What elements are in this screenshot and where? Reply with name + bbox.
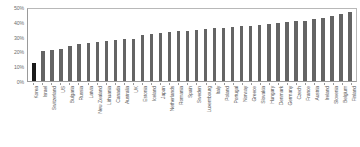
- bar: [213, 28, 216, 81]
- bar-slot: [75, 9, 84, 81]
- bar: [267, 24, 270, 81]
- x-axis-label-slot: Slovenia: [328, 83, 337, 147]
- bar-slot: [346, 9, 355, 81]
- x-axis-tick: [169, 83, 170, 85]
- x-axis-label-slot: New Zealand: [92, 83, 101, 147]
- x-axis-label-slot: Luxembourg: [201, 83, 210, 147]
- x-axis-tick: [324, 83, 325, 85]
- x-axis-label-slot: Germany: [283, 83, 292, 147]
- y-axis-tick-label: 10%: [14, 64, 24, 70]
- bar-slot: [66, 9, 75, 81]
- bar-slot: [337, 9, 346, 81]
- bar-slot: [165, 9, 174, 81]
- bar: [276, 23, 279, 81]
- plot-area: [27, 8, 357, 82]
- x-axis-tick: [187, 83, 188, 85]
- x-axis-label-slot: Czech: [292, 83, 301, 147]
- x-axis-label-slot: Poland: [219, 83, 228, 147]
- bar: [105, 41, 108, 81]
- bar: [114, 40, 117, 81]
- bar: [231, 27, 234, 81]
- x-axis-tick-label: Finland: [351, 86, 357, 101]
- bar: [348, 12, 351, 81]
- x-axis-tick: [215, 83, 216, 85]
- bar: [96, 42, 99, 81]
- bar-slot: [93, 9, 102, 81]
- y-axis-tick-label: 50%: [14, 5, 24, 11]
- x-axis-label-slot: Japan: [156, 83, 165, 147]
- bar-slot: [192, 9, 201, 81]
- bar-slot: [210, 9, 219, 81]
- bar: [312, 19, 315, 81]
- x-axis-label-slot: Spain: [183, 83, 192, 147]
- bar-slot: [237, 9, 246, 81]
- x-axis-label-slot: Finland: [346, 83, 355, 147]
- x-axis-tick: [333, 83, 334, 85]
- bar-slot: [219, 9, 228, 81]
- bar: [150, 34, 153, 81]
- y-axis-tick-label: 20%: [14, 49, 24, 55]
- bar-slot: [282, 9, 291, 81]
- bar: [240, 26, 243, 81]
- x-axis-label-slot: Switzerland: [47, 83, 56, 147]
- bar: [186, 31, 189, 81]
- bar-slot: [48, 9, 57, 81]
- x-axis-tick: [160, 83, 161, 85]
- bar-slot: [309, 9, 318, 81]
- bar-slot: [319, 9, 328, 81]
- bar-slot: [30, 9, 39, 81]
- bar: [41, 51, 44, 81]
- bar-slot: [138, 9, 147, 81]
- x-axis-label-slot: Slovakia: [255, 83, 264, 147]
- bar-slot: [102, 9, 111, 81]
- bar: [339, 14, 342, 81]
- bar: [294, 21, 297, 81]
- x-axis-tick: [342, 83, 343, 85]
- bar: [195, 30, 198, 81]
- bar-slot: [120, 9, 129, 81]
- x-axis-tick: [278, 83, 279, 85]
- x-axis-tick: [351, 83, 352, 85]
- bar: [330, 16, 333, 81]
- x-axis-tick: [233, 83, 234, 85]
- bar-slot: [264, 9, 273, 81]
- bar-slot: [39, 9, 48, 81]
- x-axis-tick: [196, 83, 197, 85]
- x-axis-labels: KoreaIsraelSwitzerlandUSBulgariaRussiaLa…: [27, 83, 357, 147]
- bar-slot: [174, 9, 183, 81]
- bar-chart: 50%40%30%20%10%0% KoreaIsraelSwitzerland…: [0, 0, 360, 147]
- x-axis-label-slot: Korea: [29, 83, 38, 147]
- bar-series: [28, 9, 356, 81]
- x-axis-label-slot: Netherlands: [165, 83, 174, 147]
- x-axis-label-slot: Sweden: [192, 83, 201, 147]
- x-axis-tick: [260, 83, 261, 85]
- bar: [204, 29, 207, 81]
- x-axis-label-slot: Canada: [110, 83, 119, 147]
- x-axis-tick: [296, 83, 297, 85]
- bar-slot: [300, 9, 309, 81]
- bar-slot: [147, 9, 156, 81]
- x-axis-tick: [69, 83, 70, 85]
- bar-slot: [228, 9, 237, 81]
- y-axis-tick-label: 40%: [14, 20, 24, 26]
- bar-slot: [183, 9, 192, 81]
- bar: [68, 46, 71, 81]
- bar: [303, 21, 306, 81]
- bar: [222, 28, 225, 81]
- x-axis-label-slot: Portugal: [228, 83, 237, 147]
- x-axis-label-slot: Lithuania: [101, 83, 110, 147]
- bar-slot: [328, 9, 337, 81]
- x-axis-tick: [242, 83, 243, 85]
- x-axis-label-slot: Norway: [237, 83, 246, 147]
- bar: [285, 22, 288, 81]
- x-axis-tick: [78, 83, 79, 85]
- bar-slot: [84, 9, 93, 81]
- x-axis-label-slot: UK: [128, 83, 137, 147]
- x-axis-tick: [88, 83, 89, 85]
- bar-slot: [246, 9, 255, 81]
- bar: [141, 35, 144, 81]
- x-axis-tick: [42, 83, 43, 85]
- bar: [132, 39, 135, 81]
- bar-slot: [156, 9, 165, 81]
- x-axis-tick: [269, 83, 270, 85]
